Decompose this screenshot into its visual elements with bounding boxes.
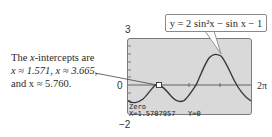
y-axis-ticks (128, 46, 131, 101)
function-curve (128, 54, 251, 102)
equation-callout: y = 2 sin²x − sin x − 1 (165, 14, 267, 32)
zero-marker (157, 83, 162, 88)
annotation-leader-line (95, 73, 157, 85)
callout-pointer (205, 31, 221, 54)
coordinate-readout: X=1.5707957 Y=0 (129, 110, 201, 118)
